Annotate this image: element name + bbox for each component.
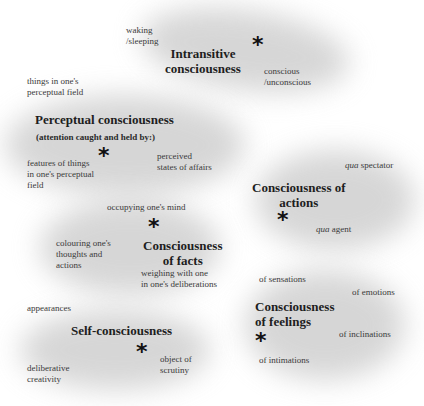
label-spectator: spectator bbox=[361, 160, 393, 170]
label-colouring-thoughts: colouring one's thoughts and actions bbox=[56, 238, 111, 271]
label-qua-agent: qua agent bbox=[316, 224, 351, 235]
node-perceptual-subtitle: (attention caught and held by:) bbox=[36, 132, 155, 142]
asterisk-icon: * bbox=[277, 209, 289, 231]
label-weighing-deliberations: weighing with one in one's deliberations bbox=[141, 268, 217, 290]
node-perceptual-title: Perceptual consciousness bbox=[35, 112, 174, 127]
node-self-title: Self-consciousness bbox=[71, 323, 172, 338]
asterisk-icon: * bbox=[255, 330, 267, 352]
qua-italic: qua bbox=[316, 224, 330, 234]
asterisk-icon: * bbox=[136, 341, 148, 363]
label-deliberative-creativity: deliberative creativity bbox=[27, 363, 69, 385]
asterisk-icon: * bbox=[98, 145, 110, 167]
node-actions-title: Consciousness of actions bbox=[252, 180, 346, 210]
asterisk-icon: * bbox=[252, 34, 264, 56]
label-features-of-things: features of things in one's perceptual f… bbox=[27, 158, 94, 191]
label-agent: agent bbox=[332, 224, 352, 234]
node-intransitive-title: Intransitive consciousness bbox=[165, 46, 241, 76]
label-qua-spectator: qua spectator bbox=[345, 160, 393, 171]
label-object-of-scrutiny: object of scrutiny bbox=[160, 354, 192, 376]
asterisk-icon: * bbox=[148, 216, 160, 238]
label-appearances: appearances bbox=[27, 303, 71, 314]
qua-italic: qua bbox=[345, 160, 359, 170]
label-conscious-unconscious: conscious /unconscious bbox=[264, 66, 311, 88]
node-feelings-title: Consciousness of feelings bbox=[255, 299, 334, 329]
label-perceived-states: perceived states of affairs bbox=[157, 151, 212, 173]
node-facts-title: Consciousness of facts bbox=[143, 238, 222, 268]
label-of-sensations: of sensations bbox=[259, 274, 306, 285]
label-of-intimations: of intimations bbox=[259, 355, 309, 366]
label-things-perceptual-field: things in one's perceptual field bbox=[27, 76, 83, 98]
label-waking-sleeping: waking /sleeping bbox=[126, 25, 159, 47]
label-occupying-mind: occupying one's mind bbox=[107, 202, 186, 213]
label-of-emotions: of emotions bbox=[352, 287, 395, 298]
label-of-inclinations: of inclinations bbox=[339, 329, 391, 340]
